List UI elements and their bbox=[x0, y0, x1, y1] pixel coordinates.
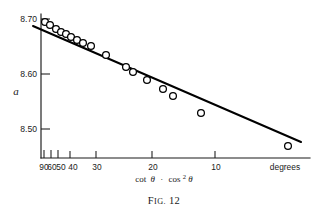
figure-caption: FIG.12 bbox=[148, 195, 180, 206]
x-title-cos: cos bbox=[168, 174, 180, 184]
x-axis-units-label: degrees bbox=[270, 162, 300, 172]
y-tick-label-860: 8.60 bbox=[20, 69, 37, 79]
axes-group bbox=[41, 14, 310, 158]
x-title-cot: cot bbox=[135, 174, 146, 184]
x-title-exponent: 2 bbox=[183, 173, 186, 180]
data-point bbox=[285, 143, 292, 150]
x-tick-marks bbox=[44, 150, 215, 158]
data-point bbox=[80, 40, 87, 47]
x-tick-label-10: 10 bbox=[211, 162, 221, 172]
data-point bbox=[130, 69, 137, 76]
x-title-theta-1: θ bbox=[151, 174, 156, 184]
caption-number: 12 bbox=[169, 195, 180, 206]
data-point bbox=[198, 110, 205, 117]
data-point bbox=[144, 77, 151, 84]
data-point bbox=[160, 86, 167, 93]
plot-canvas: 8.70 8.60 8.50 a 90 60 50 40 30 20 10 de bbox=[0, 0, 324, 215]
caption-smallcaps: IG. bbox=[154, 197, 166, 206]
x-title-dot: · bbox=[160, 174, 163, 184]
x-tick-label-50: 50 bbox=[56, 162, 66, 172]
data-point bbox=[88, 43, 95, 50]
x-tick-label-30: 30 bbox=[92, 162, 102, 172]
y-tick-label-850: 8.50 bbox=[20, 124, 37, 134]
x-tick-labels: 90 60 50 40 30 20 10 bbox=[39, 162, 221, 172]
y-tick-marks bbox=[41, 19, 50, 129]
data-point bbox=[103, 52, 110, 59]
x-tick-label-20: 20 bbox=[148, 162, 158, 172]
figure-container: 8.70 8.60 8.50 a 90 60 50 40 30 20 10 de bbox=[0, 0, 324, 215]
y-axis-title: a bbox=[13, 85, 19, 97]
y-tick-labels: 8.70 8.60 8.50 bbox=[20, 14, 37, 134]
data-point bbox=[170, 93, 177, 100]
y-tick-label-870: 8.70 bbox=[20, 14, 37, 24]
x-axis-title: cot θ · cos 2 θ bbox=[135, 171, 193, 184]
fit-line bbox=[33, 26, 301, 142]
data-point bbox=[123, 64, 130, 71]
x-title-theta-2: θ bbox=[188, 174, 193, 184]
x-tick-label-40: 40 bbox=[68, 162, 78, 172]
